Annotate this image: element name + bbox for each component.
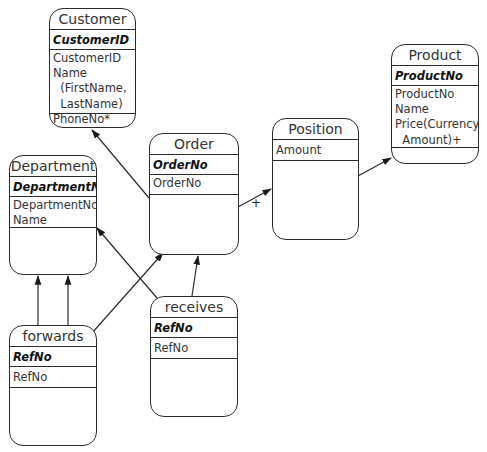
entity-title: Position [273, 119, 358, 140]
entity-key: RefNo [151, 318, 237, 338]
entity-key: CustomerID [50, 30, 135, 50]
entity-title: Department [10, 156, 96, 177]
entity-title: Order [150, 134, 238, 155]
entity-key: ProductNo [392, 66, 478, 86]
entity-order[interactable]: Order OrderNo OrderNo [149, 133, 239, 255]
entity-attributes: DepartmentNo Name [10, 197, 96, 228]
entity-forwards[interactable]: forwards RefNo RefNo [9, 325, 97, 446]
entity-title: receives [151, 297, 237, 318]
entity-attributes: OrderNo [150, 175, 238, 195]
entity-title: Product [392, 45, 478, 66]
entity-title: Customer [50, 9, 135, 30]
entity-attributes: ProductNo Name Price(Currency, Amount)+ [392, 86, 478, 148]
multiplicity-label: + [251, 196, 261, 210]
entity-attributes: CustomerID Name (FirstName, LastName) Ph… [50, 50, 135, 114]
entity-attributes: RefNo [10, 367, 96, 388]
entity-position[interactable]: Position Amount [272, 118, 359, 240]
edge-order-customer [92, 130, 149, 198]
entity-title: forwards [10, 326, 96, 347]
entity-customer[interactable]: Customer CustomerID CustomerID Name (Fir… [49, 8, 136, 128]
entity-key: RefNo [10, 347, 96, 367]
entity-key: DepartmentNo [10, 177, 96, 197]
entity-department[interactable]: Department DepartmentNo DepartmentNo Nam… [9, 155, 97, 275]
entity-receives[interactable]: receives RefNo RefNo [150, 296, 238, 417]
edge-receives-department [97, 228, 157, 298]
edge-receives-order [192, 256, 198, 296]
entity-attributes: Amount [273, 140, 358, 161]
edge-position-product [358, 158, 391, 176]
entity-key: OrderNo [150, 155, 238, 175]
entity-attributes: RefNo [151, 338, 237, 359]
entity-product[interactable]: Product ProductNo ProductNo Name Price(C… [391, 44, 479, 164]
